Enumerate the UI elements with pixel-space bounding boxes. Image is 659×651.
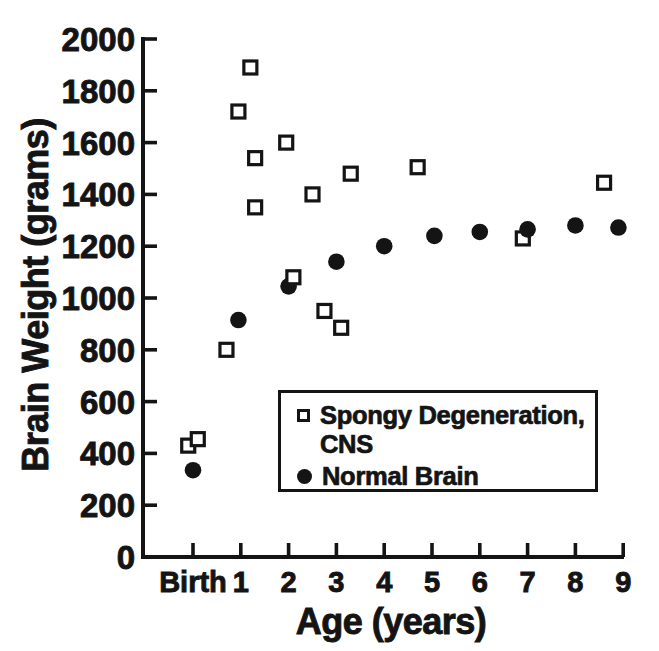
chart-legend: Spongy Degeneration, CNS Normal Brain: [278, 390, 598, 492]
legend-item-normal-brain: Normal Brain: [297, 462, 595, 491]
y-tick-label: 1800: [62, 73, 135, 110]
legend-label-spongy-degeneration: Spongy Degeneration, CNS: [320, 401, 585, 459]
data-point-normal-brain: [567, 217, 584, 234]
x-tick-label: 5: [424, 566, 440, 598]
data-point-spongy-degeneration-cns: [191, 433, 204, 446]
x-tick-label: 2: [281, 566, 297, 598]
data-point-normal-brain: [472, 224, 489, 241]
x-tick-label: Birth: [159, 566, 227, 598]
x-tick-label: 9: [615, 566, 631, 598]
data-point-spongy-degeneration-cns: [306, 188, 319, 201]
data-point-normal-brain: [185, 462, 202, 479]
data-point-spongy-degeneration-cns: [249, 201, 262, 214]
data-point-spongy-degeneration-cns: [220, 343, 233, 356]
y-tick-label: 1600: [62, 125, 135, 162]
y-tick-label: 800: [80, 332, 135, 369]
data-point-spongy-degeneration-cns: [411, 161, 424, 174]
x-tick-label: 4: [376, 566, 392, 598]
filled-circle-marker-icon: [297, 469, 312, 484]
data-point-spongy-degeneration-cns: [249, 152, 262, 165]
y-tick-label: 200: [80, 487, 135, 524]
data-point-normal-brain: [230, 312, 247, 329]
scatter-chart: 0200400600800100012001400160018002000Bir…: [0, 0, 659, 651]
y-tick-label: 1400: [62, 176, 135, 213]
data-point-normal-brain: [610, 219, 627, 236]
y-tick-label: 1200: [62, 228, 135, 265]
data-point-spongy-degeneration-cns: [344, 167, 357, 180]
data-point-normal-brain: [519, 221, 536, 238]
figure-brain-weight-vs-age: 0200400600800100012001400160018002000Bir…: [0, 0, 659, 651]
y-tick-label: 0: [117, 539, 135, 576]
x-tick-label: 7: [520, 566, 536, 598]
y-tick-label: 400: [80, 435, 135, 472]
legend-label-normal-brain: Normal Brain: [322, 462, 479, 491]
y-tick-label: 600: [80, 384, 135, 421]
data-point-spongy-degeneration-cns: [280, 136, 293, 149]
x-tick-label: 1: [233, 566, 249, 598]
y-axis-title: Brain Weight (grams): [15, 75, 57, 515]
data-point-spongy-degeneration-cns: [335, 321, 348, 334]
data-point-spongy-degeneration-cns: [287, 271, 300, 284]
y-tick-label: 1000: [62, 280, 135, 317]
data-point-normal-brain: [376, 238, 393, 255]
legend-item-spongy-degeneration: Spongy Degeneration, CNS: [297, 401, 595, 459]
data-point-spongy-degeneration-cns: [318, 304, 331, 317]
y-tick-label: 2000: [62, 21, 135, 58]
x-tick-label: 8: [567, 566, 583, 598]
data-point-normal-brain: [328, 253, 345, 270]
x-axis-title: Age (years): [231, 601, 551, 643]
open-square-marker-icon: [297, 409, 310, 422]
x-tick-label: 3: [328, 566, 344, 598]
data-point-spongy-degeneration-cns: [598, 176, 611, 189]
data-point-spongy-degeneration-cns: [232, 105, 245, 118]
data-point-normal-brain: [426, 228, 443, 245]
x-tick-label: 6: [472, 566, 488, 598]
data-point-spongy-degeneration-cns: [244, 61, 257, 74]
